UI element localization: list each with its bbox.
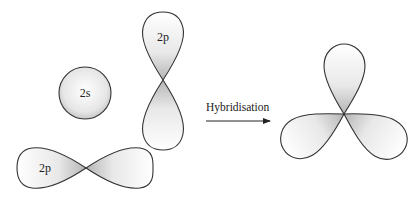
lobe-upper xyxy=(142,12,183,80)
hybrid-orbitals-sp2 xyxy=(273,44,415,167)
orbital-2p-vertical: 2p xyxy=(142,12,183,150)
lobe-right xyxy=(86,148,153,189)
lobe-lower xyxy=(142,80,183,150)
orbital-2s: 2s xyxy=(59,67,111,119)
orbital-2p-horizontal-label: 2p xyxy=(39,161,51,175)
arrow-label: Hybridisation xyxy=(206,101,269,114)
orbital-2s-label: 2s xyxy=(80,86,91,100)
hybrid-lobe-top xyxy=(324,44,365,114)
hybridisation-arrow: Hybridisation xyxy=(206,101,270,121)
lobe-left xyxy=(17,148,86,189)
orbital-2p-horizontal: 2p xyxy=(17,148,153,189)
orbital-2p-vertical-label: 2p xyxy=(157,30,169,44)
hybridisation-diagram: 2s 2p 2p Hybridisation xyxy=(0,0,416,203)
